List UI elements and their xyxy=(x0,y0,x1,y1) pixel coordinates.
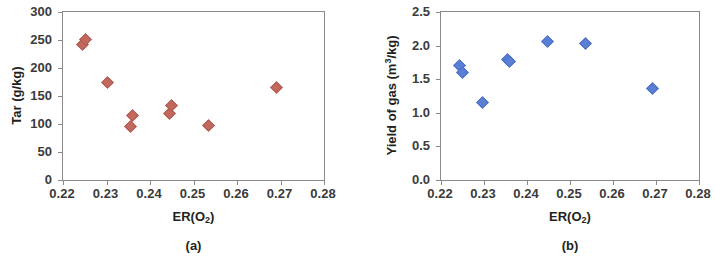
y-tick-a xyxy=(58,152,63,153)
y-tick-label-a: 0 xyxy=(45,172,52,187)
data-point xyxy=(202,119,215,132)
x-tick-label-a: 0.24 xyxy=(136,186,161,201)
x-tick-a xyxy=(281,180,282,185)
y-tick-label-a: 50 xyxy=(38,144,52,159)
y-tick-label-a: 100 xyxy=(30,116,52,131)
y-tick-b xyxy=(436,113,441,114)
y-axis-title-text-b: Yield of gas (m xyxy=(384,64,399,156)
y-tick-a xyxy=(58,68,63,69)
x-tick-b xyxy=(656,180,657,185)
x-tick-label-a: 0.27 xyxy=(267,186,292,201)
y-tick-label-a: 200 xyxy=(30,60,52,75)
plot-frame-a xyxy=(62,11,325,181)
plot-area-b xyxy=(441,12,699,180)
x-tick-label-a: 0.28 xyxy=(310,186,335,201)
x-tick-labels-b: 0.220.230.240.250.260.270.28 xyxy=(440,186,700,206)
x-tick-label-b: 0.22 xyxy=(427,186,452,201)
x-tick-label-b: 0.23 xyxy=(470,186,495,201)
y-axis-title-suffix-b: /kg) xyxy=(384,35,399,58)
panel-a: 050100150200250300 0.220.230.240.250.260… xyxy=(0,0,358,263)
x-axis-title-suffix-b: ) xyxy=(587,209,591,224)
data-point xyxy=(270,81,283,94)
y-tick-label-a: 250 xyxy=(30,32,52,47)
x-tick-label-b: 0.26 xyxy=(599,186,624,201)
y-tick-a xyxy=(58,96,63,97)
x-tick-b xyxy=(613,180,614,185)
x-tick-label-a: 0.26 xyxy=(223,186,248,201)
x-tick-label-a: 0.23 xyxy=(93,186,118,201)
x-axis-title-sub-b: 2 xyxy=(582,215,587,225)
y-axis-title-a: Tar (g/kg) xyxy=(9,36,24,156)
x-axis-title-sub-a: 2 xyxy=(205,215,210,225)
y-tick-labels-b: 0.00.51.01.52.02.5 xyxy=(394,11,434,181)
data-point xyxy=(646,82,659,95)
y-tick-label-b: 0.0 xyxy=(412,172,430,187)
data-point xyxy=(126,109,139,122)
y-axis-title-b: Yield of gas (m3/kg) xyxy=(384,13,399,178)
y-tick-label-a: 300 xyxy=(30,4,52,19)
y-tick-a xyxy=(58,12,63,13)
x-tick-labels-a: 0.220.230.240.250.260.270.28 xyxy=(62,186,325,206)
y-tick-label-b: 1.0 xyxy=(412,104,430,119)
plot-area-a xyxy=(63,12,324,180)
x-tick-label-b: 0.24 xyxy=(513,186,538,201)
x-tick-a xyxy=(237,180,238,185)
data-point xyxy=(124,120,137,133)
y-axis-title-sup-b: 3 xyxy=(383,59,393,64)
data-point xyxy=(101,76,114,89)
x-tick-label-b: 0.25 xyxy=(556,186,581,201)
x-tick-b xyxy=(570,180,571,185)
x-tick-label-b: 0.28 xyxy=(685,186,710,201)
x-tick-label-b: 0.27 xyxy=(642,186,667,201)
x-tick-a xyxy=(324,180,325,185)
x-tick-a xyxy=(194,180,195,185)
x-axis-title-text-b: ER(O xyxy=(549,209,582,224)
panel-b: 0.00.51.01.52.02.5 0.220.230.240.250.260… xyxy=(357,0,715,263)
y-tick-label-b: 0.5 xyxy=(412,138,430,153)
x-tick-b xyxy=(699,180,700,185)
panel-caption-b: (b) xyxy=(440,238,700,253)
y-tick-label-a: 150 xyxy=(30,88,52,103)
x-tick-b xyxy=(441,180,442,185)
panel-caption-a: (a) xyxy=(62,238,325,253)
x-axis-title-b: ER(O2) xyxy=(440,209,700,224)
y-tick-b xyxy=(436,12,441,13)
y-tick-a xyxy=(58,40,63,41)
y-tick-b xyxy=(436,146,441,147)
y-tick-a xyxy=(58,124,63,125)
y-tick-label-b: 1.5 xyxy=(412,71,430,86)
y-tick-b xyxy=(436,46,441,47)
x-tick-label-a: 0.22 xyxy=(49,186,74,201)
data-point xyxy=(476,96,489,109)
y-tick-label-b: 2.0 xyxy=(412,37,430,52)
plot-frame-b xyxy=(440,11,700,181)
x-tick-a xyxy=(107,180,108,185)
x-tick-b xyxy=(527,180,528,185)
data-point xyxy=(579,37,592,50)
y-tick-b xyxy=(436,79,441,80)
y-axis-title-text-a: Tar (g/kg) xyxy=(9,66,24,124)
x-axis-title-text-a: ER(O xyxy=(173,209,206,224)
y-tick-label-b: 2.5 xyxy=(412,4,430,19)
x-tick-label-a: 0.25 xyxy=(180,186,205,201)
x-tick-a xyxy=(150,180,151,185)
x-tick-a xyxy=(63,180,64,185)
x-tick-b xyxy=(484,180,485,185)
data-point xyxy=(541,36,554,49)
x-axis-title-suffix-a: ) xyxy=(210,209,214,224)
figure-container: 050100150200250300 0.220.230.240.250.260… xyxy=(0,0,715,263)
x-axis-title-a: ER(O2) xyxy=(62,209,325,224)
